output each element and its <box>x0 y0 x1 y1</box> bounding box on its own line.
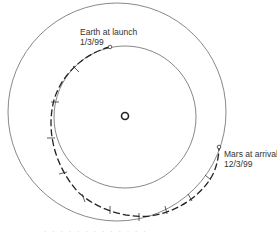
transfer-trajectory <box>51 47 219 216</box>
earth-launch-label-title: Earth at launch <box>80 27 137 37</box>
earth-launch-label: Earth at launch 1/3/99 <box>80 27 137 47</box>
earth-orbit <box>54 46 196 188</box>
figure-caption: · · · · · · · · · · · · · <box>44 228 148 235</box>
orbit-diagram <box>0 0 277 240</box>
mars-arrival-label-date: 12/3/99 <box>224 159 277 169</box>
trajectory-tick-marks <box>47 66 211 221</box>
earth-launch-label-date: 1/3/99 <box>80 37 137 47</box>
arrival-point-marker <box>217 145 221 149</box>
mars-arrival-label-title: Mars at arrival <box>224 149 277 159</box>
sun-icon <box>122 113 129 120</box>
mars-arrival-label: Mars at arrival 12/3/99 <box>224 149 277 169</box>
